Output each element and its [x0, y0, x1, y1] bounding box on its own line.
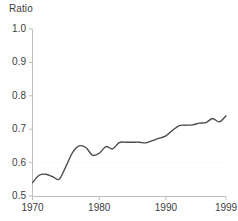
y-axis-ticks	[29, 29, 33, 196]
y-tick-label: 1.0	[2, 23, 26, 34]
x-tick-label: 1980	[79, 202, 119, 213]
x-tick-label: 1999	[206, 202, 238, 213]
data-series-line	[33, 116, 227, 183]
y-tick-label: 0.8	[2, 90, 26, 101]
axis-lines	[33, 29, 227, 197]
x-axis-ticks	[33, 197, 227, 201]
plot-area	[0, 0, 238, 221]
y-tick-label: 0.5	[2, 190, 26, 201]
y-tick-label: 0.6	[2, 157, 26, 168]
x-tick-label: 1970	[13, 202, 53, 213]
y-tick-label: 0.9	[2, 56, 26, 67]
x-tick-label: 1990	[146, 202, 186, 213]
y-tick-label: 0.7	[2, 123, 26, 134]
chart-figure: Ratio 0.50.60.70.80.91.0 197019801990199…	[0, 0, 238, 221]
